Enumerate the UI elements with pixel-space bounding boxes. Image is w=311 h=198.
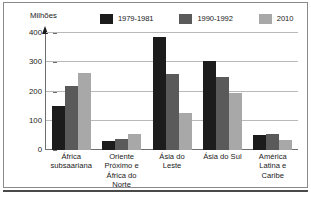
category-label-line: Latina e (242, 161, 304, 170)
y-axis-tick-mark (53, 150, 57, 151)
y-axis-tick-label: 0 (16, 146, 42, 154)
category-label-line: América (242, 152, 304, 161)
bar (102, 141, 115, 150)
legend-label: 2010 (277, 15, 294, 23)
bar (166, 74, 179, 150)
chart-figure: Milhões 1979-1981 1990-1992 2010 0100200… (0, 0, 311, 198)
legend-swatch-icon (259, 14, 272, 24)
bar (115, 139, 128, 150)
y-axis-tick-label: 400 (16, 29, 42, 37)
bar (52, 106, 65, 150)
bar (153, 37, 166, 150)
bar-group (203, 33, 242, 150)
x-axis-category-label: AméricaLatina eCaribe (242, 152, 304, 180)
bar-group (52, 33, 91, 150)
bar (229, 93, 242, 150)
bar (65, 86, 78, 150)
bar (253, 135, 266, 150)
bar (266, 134, 279, 150)
category-label-line: Leste (141, 161, 203, 170)
x-axis-category-labels: ÁfricasubsaarianaOrientePróximo eÁfrica … (46, 152, 298, 196)
legend-swatch-icon (179, 14, 192, 24)
bar-group (253, 33, 292, 150)
legend-label: 1979-1981 (118, 15, 153, 23)
legend-item-2010: 2010 (259, 14, 294, 24)
bar (279, 140, 292, 150)
category-label-line: Caribe (242, 171, 304, 180)
category-label-line: Norte (90, 180, 152, 189)
bar (179, 113, 192, 150)
y-axis-tick-label: 200 (16, 88, 42, 96)
chart-legend: 1979-1981 1990-1992 2010 (100, 12, 300, 25)
bar (78, 73, 91, 151)
bar-group (153, 33, 192, 150)
legend-swatch-icon (100, 14, 113, 24)
y-axis-tick-label: 100 (16, 117, 42, 125)
bar-group (102, 33, 141, 150)
legend-item-1979-1981: 1979-1981 (100, 14, 153, 24)
legend-item-1990-1992: 1990-1992 (179, 14, 232, 24)
plot-area (46, 33, 298, 150)
legend-label: 1990-1992 (197, 15, 232, 23)
bar (203, 61, 216, 150)
bar (216, 77, 229, 150)
y-axis-tick-labels: 0100200300400 (12, 0, 42, 198)
y-axis-tick-label: 300 (16, 58, 42, 66)
category-label-line: África do (90, 171, 152, 180)
bar (128, 134, 141, 150)
